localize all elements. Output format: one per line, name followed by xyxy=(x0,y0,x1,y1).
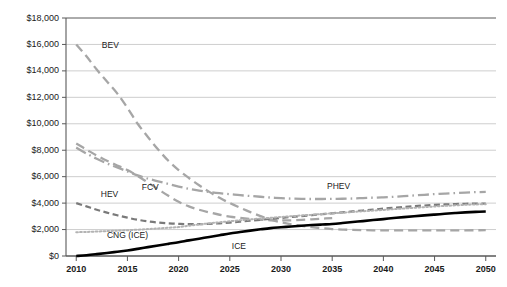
y-axis-tick-label-16000: $16,000 xyxy=(4,39,59,49)
y-axis-tick-label-4000: $4,000 xyxy=(4,198,59,208)
y-axis-tick-label-0: $0 xyxy=(4,251,59,261)
series-line-phev xyxy=(76,148,486,199)
chart-container: $0$2,000$4,000$6,000$8,000$10,000$12,000… xyxy=(0,0,507,287)
x-axis-tick-label-2015: 2015 xyxy=(103,264,151,274)
fcv-label: FCV xyxy=(142,183,159,192)
x-axis-tick-label-2030: 2030 xyxy=(257,264,305,274)
y-axis-tick-label-2000: $2,000 xyxy=(4,224,59,234)
hev-label: HEV xyxy=(101,190,118,199)
line-chart-plot xyxy=(0,0,507,287)
y-axis-tick-label-6000: $6,000 xyxy=(4,171,59,181)
x-axis-tick-label-2045: 2045 xyxy=(411,264,459,274)
x-axis-tick-label-2050: 2050 xyxy=(462,264,507,274)
x-axis-tick-label-2025: 2025 xyxy=(206,264,254,274)
y-axis-tick-label-12000: $12,000 xyxy=(4,92,59,102)
x-axis-tick-label-2010: 2010 xyxy=(52,264,100,274)
x-axis-tick-label-2020: 2020 xyxy=(155,264,203,274)
y-axis-tick-label-10000: $10,000 xyxy=(4,118,59,128)
x-axis-tick-label-2040: 2040 xyxy=(359,264,407,274)
bev-label: BEV xyxy=(102,41,119,50)
series-line-bev xyxy=(76,44,486,230)
x-axis-tick-label-2035: 2035 xyxy=(308,264,356,274)
y-axis-tick-label-18000: $18,000 xyxy=(4,13,59,23)
cng-label: CNG (ICE) xyxy=(107,231,148,240)
ice-label: ICE xyxy=(232,242,246,251)
phev-label: PHEV xyxy=(327,182,350,191)
series-line-fcv xyxy=(76,144,332,221)
y-axis-tick-label-14000: $14,000 xyxy=(4,65,59,75)
y-axis-tick-label-8000: $8,000 xyxy=(4,145,59,155)
